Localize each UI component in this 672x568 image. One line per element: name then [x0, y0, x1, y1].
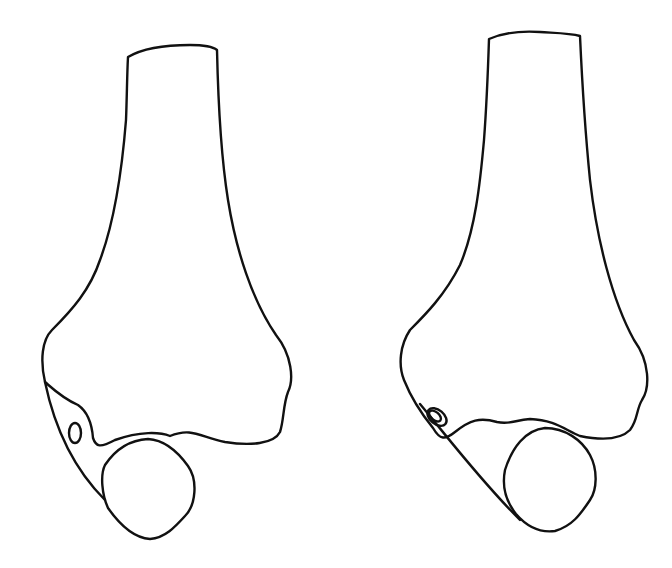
left-bone-main-outline — [42, 45, 291, 445]
left-bone-lateral-edge — [45, 382, 105, 500]
right-bone-drawing — [401, 32, 648, 532]
bone-diagram — [0, 0, 672, 568]
left-bone-condyle — [102, 439, 194, 539]
right-bone-main-outline — [401, 32, 648, 439]
left-bone-foramen — [69, 423, 81, 443]
right-bone-condyle — [504, 428, 596, 531]
right-bone-foramen-rim — [424, 405, 450, 430]
left-bone-drawing — [42, 45, 291, 539]
